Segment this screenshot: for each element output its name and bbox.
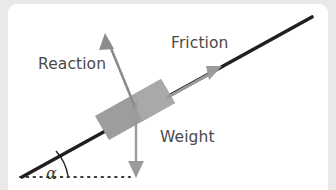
diagram-card: Reaction Friction Weight α — [8, 4, 328, 190]
weight-label: Weight — [160, 128, 215, 146]
reaction-arrow-shaft — [108, 41, 135, 107]
angle-alpha-label: α — [46, 166, 57, 182]
friction-arrow-head — [206, 66, 222, 80]
physics-diagram: Reaction Friction Weight α — [0, 0, 336, 190]
weight-arrow-head — [128, 161, 144, 178]
reaction-label: Reaction — [38, 55, 106, 73]
diagram-canvas — [8, 4, 328, 190]
reaction-arrow-head — [99, 33, 114, 50]
friction-arrow — [168, 66, 222, 97]
friction-label: Friction — [171, 34, 228, 52]
friction-arrow-shaft — [168, 72, 213, 97]
